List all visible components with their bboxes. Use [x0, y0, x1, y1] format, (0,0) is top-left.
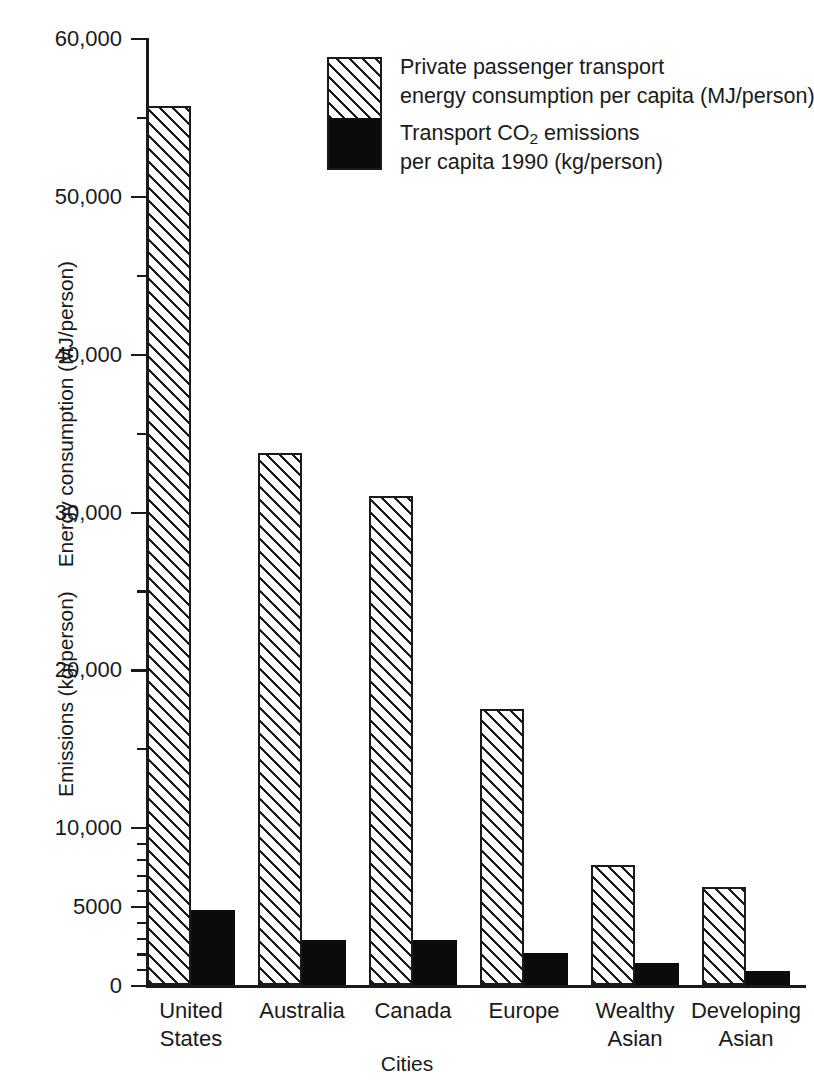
- x-axis-line: [146, 985, 806, 988]
- y-tick-major: 30,000: [131, 512, 146, 514]
- bar-energy: [702, 887, 746, 985]
- bar-energy: [591, 865, 635, 985]
- y-tick-label: 50,000: [55, 186, 122, 208]
- legend-entry-energy: Private passenger transport energy consu…: [400, 53, 814, 110]
- y-tick-minor: [137, 875, 146, 877]
- y-tick-minor: [137, 969, 146, 971]
- y-tick-major: 5000: [131, 906, 146, 908]
- bar-energy: [258, 453, 302, 985]
- y-tick-minor: [137, 843, 146, 845]
- bar-co2: [635, 963, 679, 985]
- bar-co2: [302, 940, 346, 985]
- y-tick-major: 10,000: [131, 827, 146, 829]
- y-tick-major: 20,000: [131, 669, 146, 671]
- x-axis-title: Cities: [0, 1052, 814, 1076]
- y-tick-label: 10,000: [55, 817, 122, 839]
- y-tick-minor: [137, 590, 146, 592]
- legend-co2-subscript: 2: [529, 130, 538, 147]
- bar-co2: [746, 971, 790, 985]
- y-tick-label: 30,000: [55, 502, 122, 524]
- bar-chart-figure: Emissions (kg/person) Energy consumption…: [0, 0, 814, 1091]
- bar-energy: [480, 709, 524, 985]
- y-tick-label: 40,000: [55, 344, 122, 366]
- y-tick-major: 0: [131, 985, 146, 987]
- y-tick-label: 20,000: [55, 659, 122, 681]
- y-tick-label: 60,000: [55, 28, 122, 50]
- y-tick-label: 0: [110, 975, 122, 997]
- legend-entry-co2: Transport CO2 emissions per capita 1990 …: [400, 119, 663, 176]
- y-tick-minor: [137, 748, 146, 750]
- y-tick-minor: [137, 859, 146, 861]
- y-tick-minor: [137, 890, 146, 892]
- y-tick-minor: [137, 953, 146, 955]
- chart-legend: Private passenger transport energy consu…: [327, 57, 797, 177]
- x-category-label-line: States: [117, 1025, 265, 1053]
- legend-co2-line2: per capita 1990 (kg/person): [400, 148, 663, 177]
- plot-area: 0500010,00020,00030,00040,00050,00060,00…: [146, 38, 806, 985]
- x-category-label-line: Asian: [672, 1025, 814, 1053]
- legend-co2-line1: Transport CO2 emissions: [400, 119, 663, 148]
- y-tick-minor: [137, 922, 146, 924]
- y-tick-minor: [137, 433, 146, 435]
- legend-co2-pre: Transport CO: [400, 121, 529, 145]
- y-tick-major: 60,000: [131, 38, 146, 40]
- x-category-label-line: Developing: [672, 997, 814, 1025]
- legend-swatch-combined: [327, 57, 382, 170]
- y-axis-title-emissions: Emissions (kg/person): [54, 591, 78, 797]
- legend-co2-post: emissions: [538, 121, 640, 145]
- bars-layer: [146, 38, 806, 985]
- y-tick-minor: [137, 117, 146, 119]
- y-tick-major: 50,000: [131, 196, 146, 198]
- y-tick-minor: [137, 938, 146, 940]
- bar-energy: [369, 496, 413, 985]
- legend-energy-line2: energy consumption per capita (MJ/person…: [400, 82, 814, 111]
- y-tick-major: 40,000: [131, 354, 146, 356]
- y-axis-title: Emissions (kg/person) Energy consumption…: [49, 179, 83, 879]
- legend-swatch-solid: [329, 118, 380, 168]
- legend-swatch-hatch: [329, 59, 380, 118]
- bar-co2: [413, 940, 457, 985]
- y-tick-label: 5000: [73, 896, 122, 918]
- bar-energy: [147, 106, 191, 985]
- bar-co2: [191, 910, 235, 985]
- bar-co2: [524, 953, 568, 985]
- y-tick-minor: [137, 275, 146, 277]
- legend-energy-line1: Private passenger transport: [400, 53, 814, 82]
- x-category-label: DevelopingAsian: [672, 997, 814, 1053]
